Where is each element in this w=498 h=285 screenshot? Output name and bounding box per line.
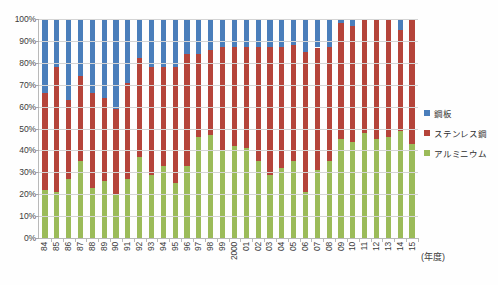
x-tick-label: 03 [264, 242, 274, 251]
gridline [39, 41, 418, 42]
bar-segment [232, 146, 237, 238]
legend-swatch-icon [424, 110, 430, 116]
x-tick-label: 10 [347, 242, 357, 251]
bar-segment [90, 93, 95, 187]
bar-segment [90, 19, 95, 93]
bar-segment [173, 19, 178, 67]
bar-segment [338, 139, 343, 238]
bar-segment [137, 19, 142, 58]
y-tickmark [36, 63, 39, 64]
bar-segment [267, 175, 272, 239]
bar-segment [315, 170, 320, 238]
x-tick-label: 99 [217, 242, 227, 251]
bar-segment [279, 19, 284, 47]
bar-segment [125, 179, 130, 238]
x-tick-label: 97 [193, 242, 203, 251]
y-tickmark [36, 238, 39, 239]
bar-segment [362, 19, 367, 133]
x-tick-label: 95 [170, 242, 180, 251]
bar-segment [137, 58, 142, 157]
bar-segment [125, 83, 130, 179]
bar-segment [173, 183, 178, 238]
bar-segment [256, 19, 261, 47]
bar-segment [54, 192, 59, 238]
bar-segment [350, 19, 355, 26]
gridline [39, 216, 418, 217]
y-tick-label: 90% [2, 36, 36, 46]
x-tick-label: 11 [359, 242, 369, 250]
gridline [39, 85, 418, 86]
bar-segment [161, 19, 166, 67]
y-tickmark [36, 85, 39, 86]
x-tick-label: 06 [300, 242, 310, 251]
legend-item[interactable]: ステンレス鋼 [424, 127, 496, 138]
bar-segment [102, 181, 107, 238]
bar-segment [350, 142, 355, 238]
y-axis-labels: 100%90%80%70%60%50%40%30%20%10%0% [2, 13, 36, 239]
bar-segment [149, 19, 154, 67]
bar-segment [409, 19, 414, 144]
bar-segment [184, 166, 189, 238]
y-tickmark [36, 194, 39, 195]
y-tick-label: 100% [2, 14, 36, 24]
bar-segment [42, 93, 47, 189]
legend-swatch-icon [424, 150, 430, 156]
gridline [39, 194, 418, 195]
x-tick-label: 91 [122, 242, 132, 251]
plot-area [38, 19, 418, 239]
x-tick-label: 08 [324, 242, 334, 251]
y-tick-label: 60% [2, 102, 36, 112]
bar-segment [102, 19, 107, 98]
bar-segment [184, 19, 189, 54]
gridline [39, 107, 418, 108]
x-tick-label: 86 [63, 242, 73, 251]
x-axis-labels: 8485868788899091929394959697989920000102… [38, 242, 417, 272]
x-tick-label: 87 [75, 242, 85, 251]
chart-container: 100%90%80%70%60%50%40%30%20%10%0% 848586… [0, 0, 498, 285]
gridline [39, 150, 418, 151]
bar-segment [66, 19, 71, 100]
gridline [39, 172, 418, 173]
bar-segment [386, 19, 391, 137]
y-tick-label: 10% [2, 211, 36, 221]
x-tick-label: 12 [371, 242, 381, 251]
legend-swatch-icon [424, 130, 430, 136]
legend-label: 鋼板 [434, 107, 452, 119]
bar-segment [386, 137, 391, 238]
bar-segment [113, 109, 118, 194]
x-tick-label: 14 [395, 242, 405, 251]
bar-segment [327, 47, 332, 161]
plot-wrapper: 100%90%80%70%60%50%40%30%20%10%0% 848586… [0, 0, 498, 285]
chart-legend: 鋼板ステンレス鋼アルミニウム [424, 107, 496, 167]
bar-segment [256, 47, 261, 161]
y-tickmark [36, 150, 39, 151]
bar-segment [208, 19, 213, 50]
bar-segment [374, 19, 379, 139]
y-tick-label: 0% [2, 233, 36, 243]
legend-item[interactable]: アルミニウム [424, 147, 496, 158]
y-tickmark [36, 41, 39, 42]
bar-segment [315, 19, 320, 47]
legend-label: アルミニウム [434, 147, 487, 159]
x-tick-label: 13 [383, 242, 393, 251]
x-tick-label: 84 [39, 242, 49, 251]
bar-segment [398, 19, 403, 30]
bar-segment [220, 19, 225, 47]
x-tick-label: 90 [110, 242, 120, 251]
y-tick-label: 40% [2, 145, 36, 155]
bar-segment [102, 98, 107, 181]
bar-segment [327, 19, 332, 47]
legend-item[interactable]: 鋼板 [424, 107, 496, 118]
bar-segment [398, 30, 403, 131]
y-tickmark [36, 129, 39, 130]
x-tick-label: 07 [312, 242, 322, 251]
bar-segment [42, 190, 47, 238]
legend-label: ステンレス鋼 [434, 127, 487, 139]
bar-segment [232, 19, 237, 47]
gridline [39, 19, 418, 20]
x-axis-title: (年度) [421, 250, 445, 263]
bar-segment [267, 47, 272, 174]
bar-segment [66, 100, 71, 179]
bar-segment [113, 19, 118, 109]
bar-segment [244, 19, 249, 47]
